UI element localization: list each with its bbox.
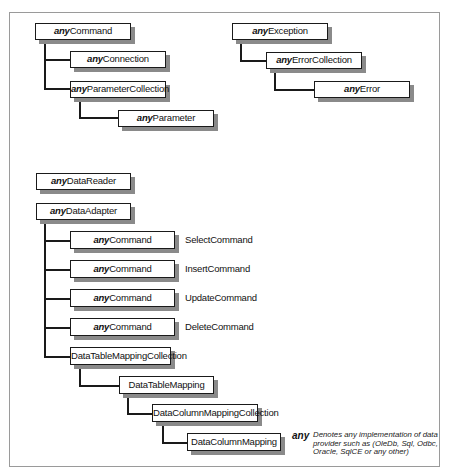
class-name: DataColumnMapping [191, 436, 277, 447]
class-name: DataColumnMappingCollection [153, 407, 279, 418]
connector [79, 117, 118, 119]
class-box-data-column-mapping: DataColumnMapping [187, 433, 281, 451]
class-box-any-parameter-collection: anyParameterCollection [70, 81, 166, 98]
connector [79, 365, 81, 386]
any-prefix: any [93, 234, 109, 245]
connector [127, 413, 152, 415]
connector [44, 240, 70, 242]
legend-term: any [292, 430, 309, 441]
class-box-any-error-collection: anyErrorCollection [266, 52, 362, 69]
connector [274, 69, 276, 90]
role-label-update: UpdateCommand [185, 292, 257, 303]
any-prefix: any [137, 112, 153, 123]
connector [162, 422, 164, 443]
connector [162, 442, 187, 444]
role-label-select: SelectCommand [185, 234, 253, 245]
any-prefix: any [252, 25, 268, 36]
role-label-insert: InsertCommand [185, 263, 250, 274]
class-box-insert-command: anyCommand [70, 260, 175, 278]
class-box-any-exception: anyException [232, 23, 328, 40]
connector [240, 40, 242, 61]
connector [44, 327, 70, 329]
class-name: Command [70, 25, 112, 36]
class-name: Command [109, 321, 151, 332]
connector [44, 356, 70, 358]
connector [127, 394, 129, 414]
legend-description: Denotes any implementation of data provi… [313, 431, 438, 457]
class-name: DataReader [67, 175, 116, 186]
class-name: Command [109, 234, 151, 245]
class-box-data-table-mapping-collection: DataTableMappingCollection [70, 347, 171, 365]
connector [44, 40, 46, 89]
class-box-any-command: anyCommand [35, 23, 131, 40]
class-box-any-parameter: anyParameter [118, 110, 214, 127]
class-box-any-data-adapter: anyDataAdapter [36, 203, 131, 220]
class-name: DataTableMapping [128, 379, 204, 390]
class-name: Parameter [153, 112, 196, 123]
class-box-any-error: anyError [314, 81, 410, 98]
class-box-update-command: anyCommand [70, 289, 175, 307]
any-prefix: any [93, 292, 109, 303]
any-prefix: any [71, 83, 87, 94]
class-box-data-column-mapping-collection: DataColumnMappingCollection [152, 404, 258, 422]
connector [79, 98, 81, 118]
class-name: ParameterCollection [87, 83, 169, 94]
connector [44, 88, 70, 90]
any-prefix: any [344, 83, 360, 94]
class-box-any-data-reader: anyDataReader [36, 173, 131, 190]
class-name: Command [109, 292, 151, 303]
class-name: Command [109, 263, 151, 274]
any-prefix: any [93, 263, 109, 274]
class-name: Error [360, 83, 380, 94]
class-name: DataAdapter [66, 205, 117, 216]
class-box-select-command: anyCommand [70, 231, 175, 249]
class-name: Connection [103, 53, 149, 64]
any-prefix: any [51, 175, 67, 186]
connector [44, 59, 70, 61]
any-prefix: any [54, 25, 70, 36]
class-name: ErrorCollection [292, 54, 352, 65]
connector [274, 89, 314, 91]
connector [79, 385, 119, 387]
any-prefix: any [50, 205, 66, 216]
class-name: DataTableMappingCollection [71, 350, 187, 361]
role-label-delete: DeleteCommand [185, 321, 254, 332]
connector [44, 269, 70, 271]
class-box-delete-command: anyCommand [70, 318, 175, 336]
any-prefix: any [276, 54, 292, 65]
class-box-data-table-mapping: DataTableMapping [119, 376, 214, 394]
any-prefix: any [87, 53, 103, 64]
connector [240, 60, 266, 62]
any-prefix: any [93, 321, 109, 332]
class-box-any-connection: anyConnection [70, 51, 166, 68]
class-name: Exception [268, 25, 308, 36]
connector [44, 298, 70, 300]
